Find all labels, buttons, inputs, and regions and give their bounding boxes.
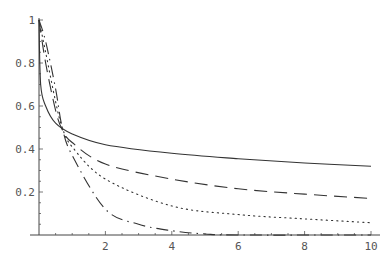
x-tick-label: 2 — [102, 240, 109, 253]
x-tick-label: 8 — [301, 240, 308, 253]
line-chart: 2468100.20.40.60.81 — [0, 0, 391, 263]
series-dash-dot — [39, 20, 371, 235]
y-tick-label: 0.6 — [15, 100, 35, 113]
y-tick-label: 1 — [28, 14, 35, 27]
series-dotted — [39, 20, 371, 223]
curves — [39, 20, 371, 235]
x-tick-label: 6 — [235, 240, 242, 253]
y-tick-label: 0.8 — [15, 57, 35, 70]
x-tick-label: 10 — [364, 240, 377, 253]
series-solid — [39, 20, 371, 166]
x-tick-label: 4 — [168, 240, 175, 253]
y-tick-label: 0.2 — [15, 186, 35, 199]
y-tick-label: 0.4 — [15, 143, 35, 156]
series-dashed — [39, 20, 371, 198]
